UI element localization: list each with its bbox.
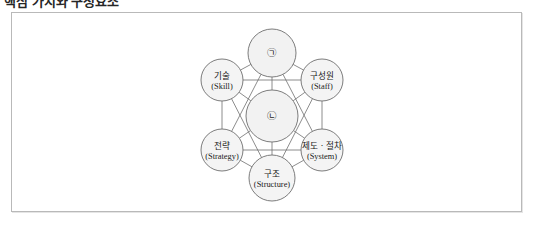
node-label-ko-staff: 구성원 <box>310 71 334 81</box>
diagram-canvas: ㉠㉡기술(Skill)구성원(Staff)전략(Strategy)제도ㆍ절차(S… <box>0 0 536 225</box>
blank-marker-center-hub: ㉡ <box>267 111 277 121</box>
node-strategy[interactable]: 전략(Strategy) <box>201 129 243 171</box>
node-skill[interactable]: 기술(Skill) <box>201 59 243 101</box>
node-staff[interactable]: 구성원(Staff) <box>301 59 343 101</box>
node-label-ko-structure: 구조 <box>264 169 280 179</box>
node-label-en-staff: (Staff) <box>311 82 333 91</box>
edge-system-center-hub <box>294 131 305 139</box>
node-label-en-structure: (Structure) <box>254 180 290 189</box>
sevens-diagram: ㉠㉡기술(Skill)구성원(Staff)전략(Strategy)제도ㆍ절차(S… <box>0 0 536 225</box>
edge-top-hub-skill <box>240 64 250 70</box>
node-label-ko-system: 제도ㆍ절차 <box>302 141 342 151</box>
hub-node-top-hub[interactable]: ㉠ <box>248 29 296 77</box>
node-label-en-skill: (Skill) <box>211 82 233 91</box>
node-structure[interactable]: 구조(Structure) <box>249 155 295 201</box>
node-system[interactable]: 제도ㆍ절차(System) <box>301 129 343 171</box>
hub-node-center-hub[interactable]: ㉡ <box>246 90 298 142</box>
edge-top-hub-staff <box>293 64 303 70</box>
node-label-en-system: (System) <box>307 152 337 161</box>
node-label-en-strategy: (Strategy) <box>205 152 239 161</box>
node-label-ko-strategy: 전략 <box>214 140 230 151</box>
blank-marker-top-hub: ㉠ <box>267 48 277 58</box>
edge-system-structure <box>292 160 304 167</box>
node-label-ko-skill: 기술 <box>214 71 230 81</box>
edge-strategy-structure <box>240 160 252 167</box>
edge-strategy-center-hub <box>239 131 250 139</box>
